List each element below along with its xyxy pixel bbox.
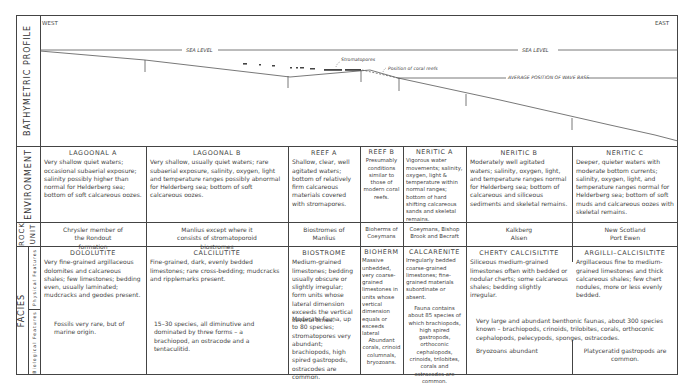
- env-title: REEF B: [362, 149, 401, 156]
- west-label: WEST: [42, 20, 58, 26]
- facies-physical-biostrome: BIOSTROME Medium-grained limestones; bed…: [288, 247, 360, 313]
- rock-unit-neritic-c: New Scotland Port Ewen: [572, 223, 678, 246]
- biological-text: Platyceratid gastropods are common.: [584, 347, 667, 362]
- env-neritic-c: NERITIC C Deeper, quieter waters with mo…: [572, 147, 678, 222]
- biological-text: Fauna contains about 85 species of which…: [408, 305, 461, 384]
- rock-unit-text-2: Port Ewen: [576, 234, 674, 242]
- facies-title: CALCARENITE: [406, 249, 463, 256]
- biological-text: 15–30 species, all diminutive and domina…: [154, 320, 254, 352]
- stromatopores-label: Stromatopores: [341, 57, 375, 62]
- biological-bioherm: Abundant corals, crinoid columnals, bryo…: [360, 335, 403, 375]
- physical-text: Argillaceous fine to medium-grained lime…: [576, 258, 663, 298]
- biological-calcilutite: 15–30 species, all diminutive and domina…: [146, 318, 288, 374]
- rock-unit-text: Coeymans, Bishop Brook and Becraft: [410, 226, 460, 239]
- facies-title: CALCILUTITE: [150, 249, 284, 257]
- env-text: Very shallow, usually quiet waters; rare…: [150, 158, 280, 198]
- env-text: Moderately well agitated waters; salinit…: [470, 158, 567, 206]
- biological-neritic-shared: Very large and abundant benthonic faunas…: [470, 315, 676, 341]
- facies-title: ARGILLI–CALCISILTITE: [576, 249, 674, 257]
- rock-unit-neritic-a: Coeymans, Bishop Brook and Becraft: [403, 223, 466, 246]
- facies-physical-cherty-calcisiltite: CHERTY CALCISILTITE Siliceous medium-gra…: [466, 247, 572, 297]
- facies-title: BIOSTROME: [292, 249, 356, 257]
- facies-physical-argilli-calcisiltite: ARGILLI–CALCISILTITE Argillaceous fine t…: [572, 247, 678, 297]
- rock-unit-lagoonal-b: Manlius except where it consists of stro…: [146, 223, 288, 246]
- biological-text: Abundant corals, crinoid columnals, bryo…: [363, 337, 401, 365]
- biological-text: Moderate fauna, up to 80 species; stroma…: [292, 315, 351, 380]
- env-text: Presumably conditions similar to those o…: [364, 157, 400, 199]
- biological-text: Bryozoans abundant: [476, 347, 538, 354]
- rock-unit-reef-a: Biostromes of Manlius: [288, 223, 360, 246]
- biological-calcarenite: Fauna contains about 85 species of which…: [403, 303, 466, 375]
- biological-text: Very large and abundant benthonic faunas…: [476, 317, 663, 341]
- facies-physical-bioherm: BIOHERM Massive unbedded, very coarse-gr…: [360, 247, 403, 313]
- env-text: Vigorous water movements; salinity, oxyg…: [406, 157, 463, 221]
- facies-physical-dololutite: DOLOLUTITE Very fine-grained argillaceou…: [40, 247, 146, 309]
- biological-cherty-calcisiltite: Bryozoans abundant: [466, 345, 572, 375]
- rock-unit-neritic-b: Kalkberg Alsen: [466, 223, 572, 246]
- biological-dololutite: Fossils very rare, but of marine origin.: [40, 318, 146, 374]
- env-reef-a: REEF A Shallow, clear, well agitated wat…: [288, 147, 360, 222]
- physical-text: Very fine-grained argillaceous dolomites…: [44, 258, 141, 298]
- env-neritic-b: NERITIC B Moderately well agitated water…: [466, 147, 572, 222]
- rock-unit-text-1: Kalkberg: [470, 226, 568, 234]
- bathymetric-profile-drawing: [0, 0, 687, 146]
- env-lagoonal-a: LAGOONAL A Very shallow quiet waters; oc…: [40, 147, 146, 222]
- physical-text: Massive unbedded, very coarse-grained li…: [362, 257, 398, 336]
- row-label-physical: Physical Features: [28, 246, 40, 309]
- physical-text: Fine-grained, dark, evenly bedded limest…: [150, 258, 280, 282]
- env-text: Very shallow quiet waters; occasional su…: [44, 158, 142, 198]
- env-title: NERITIC C: [576, 149, 674, 157]
- row-label-facies: FACIES: [16, 246, 28, 375]
- env-reef-b: REEF B Presumably conditions similar to …: [360, 147, 403, 222]
- row-label-environment: ENVIRONMENT: [16, 146, 40, 222]
- facies-label: FACIES: [18, 294, 27, 327]
- env-title: NERITIC B: [470, 149, 568, 157]
- rock-unit-text-2: Alsen: [470, 234, 568, 242]
- env-lagoonal-b: LAGOONAL B Very shallow, usually quiet w…: [146, 147, 288, 222]
- env-text: Deeper, quieter waters with moderate bot…: [576, 158, 674, 215]
- biological-argilli-calcisiltite: Platyceratid gastropods are common.: [572, 345, 678, 375]
- physical-text: Siliceous medium-grained limestones ofte…: [470, 258, 568, 298]
- sea-level-label-west: SEA LEVEL: [186, 47, 213, 53]
- biological-biostrome: Moderate fauna, up to 80 species; stroma…: [288, 313, 360, 375]
- row-label-biological: Biological Features: [28, 309, 40, 375]
- env-title: LAGOONAL A: [44, 149, 142, 157]
- env-title: NERITIC A: [406, 149, 463, 156]
- facies-title: DOLOLUTITE: [44, 249, 142, 257]
- env-title: LAGOONAL B: [150, 149, 284, 157]
- wave-base-label: AVERAGE POSITION OF WAVE BASE: [508, 75, 589, 80]
- env-neritic-a: NERITIC A Vigorous water movements; sali…: [403, 147, 466, 222]
- env-text: Shallow, clear, well agitated waters; bo…: [292, 158, 351, 206]
- env-title: REEF A: [292, 149, 356, 157]
- physical-text: Irregularly bedded coarse-grained limest…: [406, 257, 456, 299]
- rock-unit-text: Biostromes of Manlius: [303, 226, 344, 241]
- row-label-unit: UNIT: [27, 222, 40, 246]
- rock-label: ROCK: [18, 222, 26, 246]
- facies-physical-calcilutite: CALCILUTITE Fine-grained, dark, evenly b…: [146, 247, 288, 309]
- facies-title: CHERTY CALCISILTITE: [470, 249, 568, 257]
- rock-unit-lagoonal-a: Chrysler member of the Rondout formation: [40, 223, 146, 246]
- rock-unit-reef-b: Bioherms of Coeymans: [360, 223, 403, 246]
- facies-title: BIOHERM: [362, 249, 401, 256]
- unit-label: UNIT: [30, 224, 38, 245]
- rock-unit-text-1: New Scotland: [576, 226, 674, 234]
- east-label: EAST: [655, 20, 669, 26]
- environment-label: ENVIRONMENT: [24, 149, 33, 220]
- biological-text: Fossils very rare, but of marine origin.: [54, 320, 124, 335]
- sea-level-label-east: SEA LEVEL: [522, 47, 549, 53]
- coral-reefs-label: Position of coral reefs: [388, 66, 438, 71]
- physical-features-label: Physical Features: [32, 249, 37, 306]
- biological-features-label: Biological Features: [32, 311, 37, 373]
- facies-physical-calcarenite: CALCARENITE Irregularly bedded coarse-gr…: [403, 247, 466, 303]
- rock-unit-text: Bioherms of Coeymans: [365, 226, 397, 239]
